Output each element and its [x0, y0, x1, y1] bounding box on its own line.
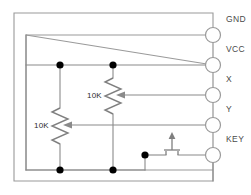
terminal-gnd[interactable]: [206, 28, 221, 43]
terminal-label-gnd: GND: [226, 14, 246, 24]
node-vcc-pot-x: [109, 61, 116, 68]
terminal-label-vcc: VCC: [226, 44, 245, 54]
pot-y-wiper-arrow: [63, 122, 72, 129]
terminal-key[interactable]: [206, 148, 221, 163]
terminal-label-x: X: [226, 74, 232, 84]
resistor-pot-x: 10K: [87, 65, 213, 170]
terminal-label-y: Y: [226, 104, 232, 114]
schematic-canvas: 10K 10K: [0, 0, 251, 195]
resistor-pot-y: 10K: [34, 65, 213, 170]
key-switch: [145, 132, 213, 170]
node-vcc-pot-y: [56, 61, 63, 68]
pot-x-value-label: 10K: [87, 91, 102, 100]
circuit-schematic: 10K 10K: [0, 0, 251, 195]
key-plunger-arrow-icon: [169, 132, 176, 139]
terminal-y[interactable]: [206, 118, 221, 133]
pot-x-wiper-arrow: [116, 92, 125, 99]
terminal-vcc[interactable]: [206, 58, 221, 73]
inner-frame: [26, 35, 213, 65]
pot-y-value-label: 10K: [34, 121, 49, 130]
terminal-label-key: KEY: [226, 134, 244, 144]
node-gnd-pot-x: [109, 166, 116, 173]
terminal-x[interactable]: [206, 88, 221, 103]
terminal-group: GND VCC X Y KEY: [206, 14, 247, 163]
node-gnd-pot-y: [56, 166, 63, 173]
node-key-switch: [141, 151, 148, 158]
junction-nodes: [56, 61, 148, 173]
